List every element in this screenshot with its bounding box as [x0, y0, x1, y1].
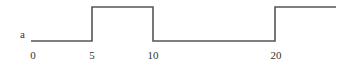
tick-label-10: 10 [148, 49, 160, 61]
signal-label: a [20, 28, 25, 40]
tick-label-20: 20 [271, 49, 283, 61]
step-waveform [31, 7, 336, 41]
timing-diagram: a 0 5 10 20 [0, 0, 357, 68]
tick-label-5: 5 [89, 49, 95, 61]
tick-label-0: 0 [30, 49, 36, 61]
